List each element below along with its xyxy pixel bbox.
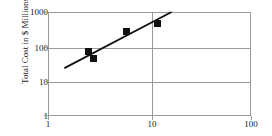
x-tick-label-10: 10 <box>132 120 172 129</box>
data-point-marker <box>123 28 130 35</box>
x-tick-mark-10 <box>152 116 153 120</box>
plot-area <box>48 12 251 116</box>
gridline-x-10 <box>152 13 153 115</box>
x-tick-label-1: 1 <box>28 120 68 129</box>
gridline-y-10 <box>49 82 250 83</box>
x-tick-mark-100 <box>251 116 252 120</box>
x-tick-mark-1 <box>48 116 49 120</box>
data-point-marker <box>90 55 97 62</box>
chart-figure: Total Cost in $ Millions 1000 100 10 1 1… <box>0 0 272 136</box>
gridline-y-100 <box>49 48 250 49</box>
y-tick-label-1000: 1000 <box>8 8 48 17</box>
x-tick-label-100: 100 <box>231 120 271 129</box>
y-tick-label-10: 10 <box>8 78 48 87</box>
data-point-marker <box>154 20 161 27</box>
y-tick-label-100: 100 <box>8 44 48 53</box>
